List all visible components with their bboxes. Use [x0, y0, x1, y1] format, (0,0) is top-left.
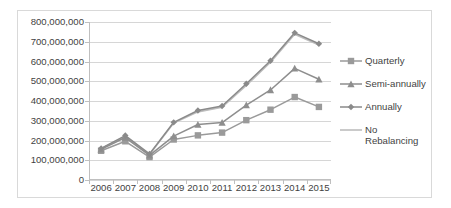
series-layer	[89, 22, 331, 180]
legend-label: No Rebalancing	[365, 124, 432, 146]
data-point-marker	[348, 58, 354, 64]
series-line	[101, 34, 319, 154]
x-tick-label: 2010	[187, 182, 208, 194]
y-tick-label: 700,000,000	[20, 37, 84, 47]
x-axis-labels: 2006200720082009201020112012201320142015	[89, 182, 331, 196]
plot-area	[89, 22, 331, 180]
y-tick-label: 100,000,000	[20, 155, 84, 165]
legend-item-semi-annually[interactable]: Semi-annually	[340, 78, 432, 90]
x-tick-label: 2013	[260, 182, 281, 194]
legend-item-no-rebalancing[interactable]: No Rebalancing	[340, 124, 432, 146]
legend-marker-diamond-icon	[340, 101, 362, 113]
legend-item-annually[interactable]: Annually	[340, 101, 432, 113]
x-tick-label: 2012	[236, 182, 257, 194]
data-point-marker	[243, 102, 250, 109]
legend-marker-triangle-icon	[340, 78, 362, 90]
legend-item-quarterly[interactable]: Quarterly	[340, 55, 432, 67]
x-tick-label: 2007	[115, 182, 136, 194]
y-tick-label: 300,000,000	[20, 116, 84, 126]
y-tick-label: 200,000,000	[20, 136, 84, 146]
y-axis-labels: 800,000,000700,000,000600,000,000500,000…	[18, 22, 89, 180]
data-point-marker	[243, 117, 249, 123]
data-point-marker	[219, 129, 225, 135]
data-point-marker	[195, 132, 201, 138]
chart-container: 800,000,000700,000,000600,000,000500,000…	[17, 10, 432, 198]
data-point-marker	[170, 133, 177, 140]
series-line	[101, 33, 319, 154]
legend-marker-square-icon	[340, 55, 362, 67]
data-point-marker	[316, 41, 322, 47]
x-tick-label: 2006	[90, 182, 111, 194]
x-tick-label: 2014	[284, 182, 305, 194]
data-point-marker	[348, 104, 354, 110]
legend-label: Annually	[365, 101, 402, 112]
y-tick-label: 800,000,000	[20, 17, 84, 27]
chart-legend: QuarterlySemi-annuallyAnnuallyNo Rebalan…	[340, 55, 432, 157]
y-tick-label: 500,000,000	[20, 76, 84, 86]
legend-label: Semi-annually	[365, 78, 426, 89]
x-tick-label: 2008	[139, 182, 160, 194]
x-tick-label: 2015	[308, 182, 329, 194]
y-tick-label: 400,000,000	[20, 96, 84, 106]
legend-label: Quarterly	[365, 55, 404, 66]
series-annually	[98, 30, 322, 157]
data-point-marker	[267, 106, 273, 112]
x-tick-label: 2011	[212, 182, 233, 194]
data-point-marker	[292, 94, 298, 100]
series-quarterly	[98, 94, 322, 160]
x-tick-label: 2009	[163, 182, 184, 194]
series-line	[101, 97, 319, 157]
legend-marker-line-icon	[340, 124, 362, 136]
data-point-marker	[316, 104, 322, 110]
data-point-marker	[315, 76, 322, 83]
data-point-marker	[291, 65, 298, 72]
y-tick-label: 0	[20, 175, 84, 185]
y-tick-label: 600,000,000	[20, 57, 84, 67]
series-no-rebalancing	[101, 34, 319, 154]
